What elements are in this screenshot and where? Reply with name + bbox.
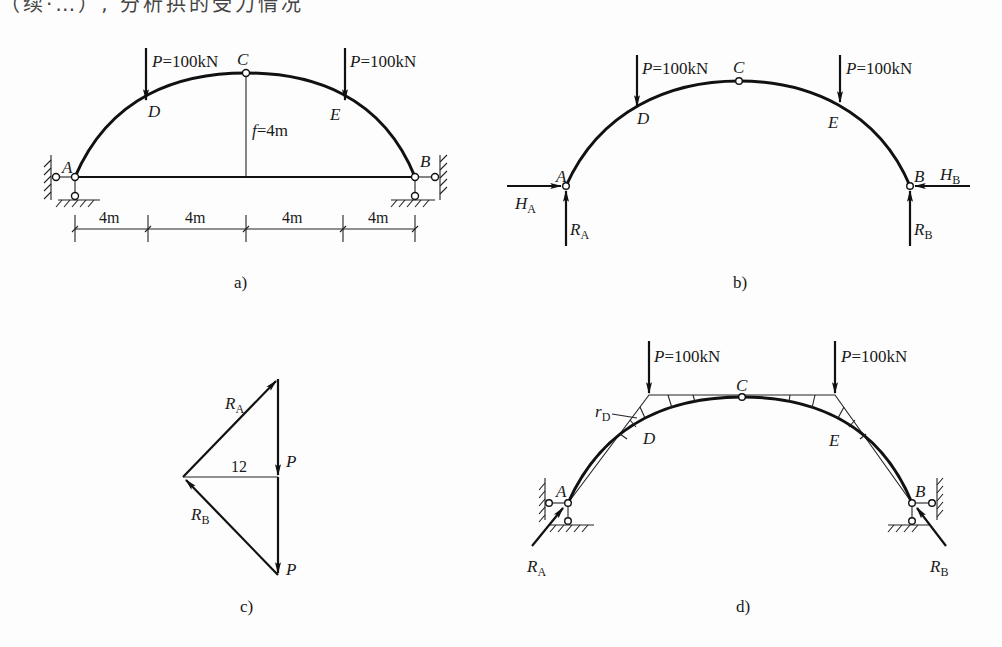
label-ha: HA	[514, 194, 536, 216]
reaction-arrow-rb	[917, 508, 946, 546]
force-rb	[186, 480, 278, 575]
node-label-c: C	[733, 58, 745, 77]
label-ra: RA	[569, 220, 589, 242]
load-label-d: P=100kN	[653, 347, 720, 366]
caption-c: c)	[240, 597, 253, 616]
label-rb: RB	[913, 220, 932, 242]
load-label-e: P=100kN	[349, 52, 416, 71]
support-b	[391, 155, 447, 207]
label-p1: P	[285, 452, 296, 471]
arch-d	[568, 397, 912, 503]
load-label-e: P=100kN	[840, 347, 907, 366]
arch-diagrams: P=100kN P=100kN C D E A B f=4m	[0, 0, 1002, 647]
figure-page: （续·…）, 分析拱的受力情况 P=100kN P=100kN C D E A	[0, 0, 1002, 647]
label-rd: rD	[595, 402, 611, 424]
span-label-1: 4m	[99, 209, 120, 226]
panel-c-force-polygon: RA RB P P 12 c)	[183, 379, 296, 616]
node-label-c: C	[237, 50, 249, 69]
node-label-d: D	[147, 102, 161, 121]
label-p2: P	[285, 560, 296, 579]
arch-a	[75, 73, 415, 177]
caption-a: a)	[234, 273, 247, 292]
node-label-e: E	[329, 105, 341, 124]
panel-d: P=100kN P=100kN C D E rD	[526, 341, 948, 616]
label-ra: RA	[224, 394, 244, 416]
caption-b: b)	[733, 273, 747, 292]
hinge-b	[907, 183, 914, 190]
node-label-e: E	[828, 431, 840, 450]
arch-b	[566, 81, 910, 186]
pressure-line	[568, 395, 912, 503]
node-label-a: A	[555, 167, 567, 186]
panel-a: P=100kN P=100kN C D E A B f=4m	[44, 48, 447, 292]
load-label-e: P=100kN	[845, 59, 912, 78]
reaction-arrow-ra	[532, 508, 563, 546]
label-rb: RB	[929, 557, 948, 579]
node-label-e: E	[827, 113, 839, 132]
panel-b: P=100kN P=100kN C D E A B HA RA HB RB b)	[507, 55, 970, 292]
load-label-d: P=100kN	[641, 59, 708, 78]
label-rb: RB	[190, 505, 209, 527]
node-label-a: A	[61, 158, 73, 177]
hinge-c	[736, 78, 743, 85]
span-label-4: 4m	[368, 209, 389, 226]
label-hb: HB	[939, 165, 960, 187]
node-label-d: D	[636, 109, 650, 128]
node-label-c: C	[736, 376, 748, 395]
node-label-b: B	[420, 152, 431, 171]
node-label-b: B	[914, 167, 925, 186]
span-dimensions: 4m 4m 4m 4m	[72, 209, 418, 242]
node-label-a: A	[555, 482, 567, 501]
rise-label: f=4m	[252, 121, 288, 140]
hinge-c	[243, 70, 250, 77]
span-label-2: 4m	[185, 209, 206, 226]
span-label-3: 4m	[282, 209, 303, 226]
label-ra: RA	[526, 557, 546, 579]
load-label-d: P=100kN	[151, 52, 218, 71]
support-a	[539, 478, 594, 532]
node-label-b: B	[915, 482, 926, 501]
node-label-d: D	[642, 429, 656, 448]
label-pole-distance: 12	[231, 458, 247, 475]
caption-d: d)	[736, 597, 750, 616]
